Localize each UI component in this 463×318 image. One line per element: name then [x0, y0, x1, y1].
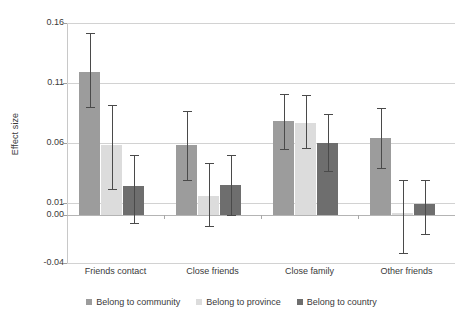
y-axis-tick-label: 0.06 — [46, 138, 64, 147]
error-bar-cap-upper — [108, 105, 117, 106]
error-bar-cap-upper — [130, 155, 139, 156]
plot-area — [67, 23, 455, 263]
error-bar — [187, 111, 188, 181]
legend-label: Belong to community — [96, 297, 180, 307]
error-bar-cap-upper — [324, 114, 333, 115]
x-axis-tick-label: Close family — [261, 266, 358, 276]
x-axis-tick — [261, 215, 262, 219]
error-bar — [425, 180, 426, 234]
error-bar — [134, 155, 135, 223]
gridline — [67, 83, 455, 84]
error-bar-cap-lower — [227, 215, 236, 216]
error-bar-cap-lower — [377, 168, 386, 169]
legend-label: Belong to country — [307, 297, 377, 307]
error-bar-cap-upper — [421, 180, 430, 181]
error-bar-cap-upper — [280, 94, 289, 95]
error-bar-cap-lower — [302, 148, 311, 149]
error-bar — [306, 95, 307, 148]
error-bar-cap-lower — [280, 149, 289, 150]
error-bar — [284, 94, 285, 149]
error-bar-cap-lower — [324, 171, 333, 172]
error-bar — [403, 180, 404, 253]
y-axis-title-text: Effect size — [10, 113, 20, 155]
x-axis-tick — [358, 215, 359, 219]
error-bar-cap-lower — [183, 180, 192, 181]
error-bar-cap-lower — [86, 107, 95, 108]
y-axis-tick — [63, 203, 67, 204]
legend-swatch-icon — [297, 299, 303, 305]
x-axis-tick — [164, 215, 165, 219]
y-axis-tick — [63, 23, 67, 24]
error-bar-cap-upper — [399, 180, 408, 181]
y-axis-tick-label: 0.00 — [46, 210, 64, 219]
legend-label: Belong to province — [206, 297, 281, 307]
error-bar-cap-lower — [399, 253, 408, 254]
legend-item[interactable]: Belong to country — [297, 297, 377, 307]
error-bar-cap-upper — [377, 108, 386, 109]
error-bar-cap-upper — [302, 95, 311, 96]
y-axis-tick — [63, 83, 67, 84]
error-bar — [112, 105, 113, 189]
chart-legend: Belong to communityBelong to provinceBel… — [0, 294, 463, 310]
error-bar-cap-lower — [130, 223, 139, 224]
error-bar — [209, 163, 210, 225]
error-bar-cap-upper — [183, 111, 192, 112]
gridline — [67, 263, 455, 264]
bar-chart-figure: Effect size 0.160.110.060.010.00-0.04 Fr… — [0, 0, 463, 318]
y-axis-tick-labels: 0.160.110.060.010.00-0.04 — [27, 23, 64, 263]
legend-item[interactable]: Belong to province — [196, 297, 281, 307]
error-bar — [381, 108, 382, 168]
y-axis-tick — [63, 143, 67, 144]
x-axis-tick-label: Other friends — [358, 266, 455, 276]
x-axis-tick-label: Friends contact — [67, 266, 164, 276]
legend-item[interactable]: Belong to community — [86, 297, 180, 307]
x-axis-tick-label: Close friends — [164, 266, 261, 276]
y-axis-tick-label: 0.16 — [46, 18, 64, 27]
error-bar-cap-upper — [205, 163, 214, 164]
y-axis-tick — [63, 263, 67, 264]
gridline — [67, 23, 455, 24]
error-bar-cap-lower — [421, 234, 430, 235]
y-axis-tick-label: 0.11 — [47, 78, 64, 87]
y-axis-tick — [63, 215, 67, 216]
error-bar-cap-lower — [205, 226, 214, 227]
legend-swatch-icon — [196, 299, 202, 305]
y-axis-tick-label: -0.04 — [43, 258, 64, 267]
error-bar-cap-upper — [227, 155, 236, 156]
error-bar — [231, 155, 232, 215]
legend-swatch-icon — [86, 299, 92, 305]
y-axis-tick-label: 0.01 — [46, 198, 64, 207]
error-bar — [90, 33, 91, 107]
y-axis-title: Effect size — [4, 0, 26, 268]
error-bar — [328, 114, 329, 170]
error-bar-cap-upper — [86, 33, 95, 34]
x-axis-tick-labels: Friends contactClose friendsClose family… — [67, 266, 455, 282]
error-bar-cap-lower — [108, 189, 117, 190]
gridline — [67, 143, 455, 144]
